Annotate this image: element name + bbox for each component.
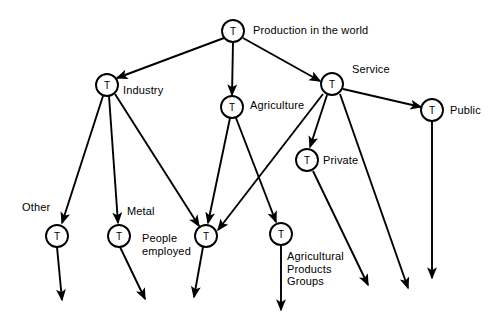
node-letter-industry: T (104, 80, 110, 91)
node-label-agprod: Agricultural Products Groups (287, 250, 344, 288)
diagram-canvas: TTTTTTTTTT Production in the worldIndust… (0, 0, 503, 325)
node-service[interactable]: T (321, 73, 343, 95)
graph-svg: TTTTTTTTTT (0, 0, 503, 325)
edge-people-to-dangle-people (194, 247, 203, 297)
node-label-other: Other (22, 201, 50, 214)
node-label-private: Private (323, 154, 358, 167)
node-letter-metal: T (116, 231, 122, 242)
node-industry[interactable]: T (96, 74, 118, 96)
node-label-public: Public (450, 104, 481, 117)
node-other[interactable]: T (46, 225, 68, 247)
node-label-metal: Metal (127, 205, 155, 218)
node-letter-other: T (54, 231, 60, 242)
edge-service-to-dangle-service (340, 94, 408, 288)
node-agriculture[interactable]: T (221, 96, 243, 118)
node-letter-service: T (329, 79, 335, 90)
node-letter-agprod: T (278, 229, 284, 240)
node-label-service: Service (352, 63, 390, 76)
node-letter-production: T (230, 26, 236, 37)
edge-industry-to-other (62, 96, 103, 223)
edge-other-to-dangle-other (57, 247, 62, 300)
node-letter-private: T (304, 155, 310, 166)
node-metal[interactable]: T (108, 225, 130, 247)
node-letter-public: T (429, 105, 435, 116)
edge-industry-to-metal (109, 96, 118, 223)
node-private[interactable]: T (296, 149, 318, 171)
node-layer: TTTTTTTTTT (46, 20, 443, 247)
edge-production-to-industry (117, 38, 224, 78)
node-label-people: People employed (142, 232, 191, 257)
node-people[interactable]: T (195, 225, 217, 247)
node-label-industry: Industry (123, 84, 163, 97)
edge-agriculture-to-people (208, 118, 230, 223)
node-production[interactable]: T (222, 20, 244, 42)
node-agprod[interactable]: T (270, 223, 292, 245)
node-public[interactable]: T (421, 99, 443, 121)
edge-agriculture-to-agprod (236, 118, 276, 222)
edge-service-to-public (343, 89, 421, 107)
node-label-production: Production in the world (253, 24, 368, 37)
node-letter-people: T (203, 231, 209, 242)
edge-service-to-private (310, 95, 327, 147)
node-letter-agriculture: T (229, 102, 235, 113)
edge-production-to-agriculture (232, 42, 233, 95)
node-label-agriculture: Agriculture (250, 99, 304, 112)
edge-production-to-service (243, 38, 320, 81)
